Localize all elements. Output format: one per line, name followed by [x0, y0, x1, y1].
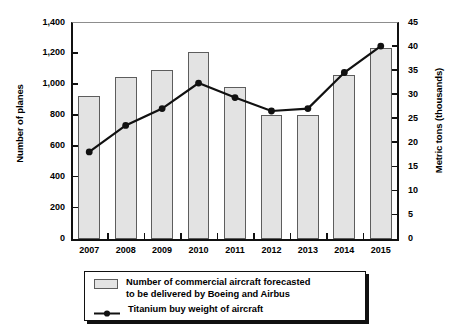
y-left-tick-label: 800: [25, 109, 65, 119]
legend-bar-swatch-icon: [94, 279, 118, 289]
legend-line-label: Titanium buy weight of aircraft: [128, 304, 263, 316]
x-tick-label: 2015: [361, 245, 401, 255]
x-tick-label: 2010: [179, 245, 219, 255]
y-left-tick-label: 400: [25, 171, 65, 181]
y-left-tick-label: 200: [25, 202, 65, 212]
y-left-tick-label: 1,200: [25, 47, 65, 57]
x-tick-label: 2011: [215, 245, 255, 255]
bar: [151, 70, 173, 239]
bar-series: [71, 22, 399, 239]
chart-legend: Number of commercial aircraft forecasted…: [84, 271, 366, 321]
x-tick-label: 2012: [251, 245, 291, 255]
y-right-tick-label: 0: [408, 233, 438, 243]
x-tick-label: 2013: [288, 245, 328, 255]
x-tick-label: 2014: [324, 245, 364, 255]
y-right-tick-label: 15: [408, 161, 438, 171]
bar: [370, 48, 392, 238]
legend-item-bars: Number of commercial aircraft forecasted…: [94, 277, 310, 300]
y-left-tick-label: 600: [25, 140, 65, 150]
y-right-tick-label: 30: [408, 89, 438, 99]
y-left-tick-label: 1,400: [25, 17, 65, 27]
legend-line-swatch-icon: [94, 305, 120, 316]
bar: [261, 115, 283, 239]
bar: [78, 96, 100, 238]
chart-container: Number of planes Metric tons (thousands)…: [0, 0, 454, 332]
x-tick-label: 2007: [69, 245, 109, 255]
y-axis-left-title: Number of planes: [14, 69, 25, 179]
y-right-tick-label: 25: [408, 113, 438, 123]
x-tick-label: 2008: [106, 245, 146, 255]
bar: [115, 77, 137, 239]
y-right-tick-label: 5: [408, 209, 438, 219]
y-right-tick-label: 20: [408, 137, 438, 147]
bar: [224, 87, 246, 239]
legend-bars-label: Number of commercial aircraft forecasted…: [126, 277, 310, 300]
x-tick-label: 2009: [142, 245, 182, 255]
y-left-tick-label: 0: [25, 233, 65, 243]
y-right-tick-label: 40: [408, 41, 438, 51]
y-left-tick-label: 1,000: [25, 78, 65, 88]
y-right-tick-label: 10: [408, 185, 438, 195]
y-right-tick-label: 35: [408, 65, 438, 75]
bar: [297, 115, 319, 239]
bar: [188, 52, 210, 238]
legend-item-line: Titanium buy weight of aircraft: [94, 304, 263, 316]
y-right-tick-label: 45: [408, 17, 438, 27]
bar: [333, 75, 355, 239]
